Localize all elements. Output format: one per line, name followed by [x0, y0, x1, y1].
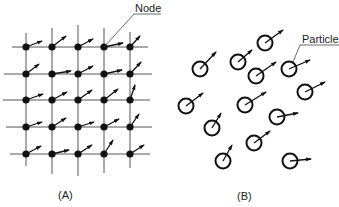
velocity-arrow-icon [52, 92, 67, 100]
particle [247, 131, 271, 151]
velocity-arrow-icon [78, 66, 93, 74]
particle [298, 82, 326, 100]
particle-leader-line [293, 45, 339, 62]
particle-callout: Particle [293, 33, 339, 62]
node [48, 92, 67, 104]
node-label: Node [135, 2, 161, 14]
particle [231, 50, 253, 70]
velocity-arrow-icon [52, 118, 66, 127]
velocity-arrow-icon [78, 90, 92, 100]
velocity-arrow-icon [277, 113, 298, 117]
node-leader-line [104, 14, 161, 47]
node [126, 114, 139, 131]
node [126, 145, 144, 158]
node [100, 140, 113, 158]
node [100, 119, 119, 131]
velocity-arrow-icon [104, 119, 119, 127]
node [22, 94, 43, 104]
particle-label: Particle [302, 33, 339, 45]
velocity-arrow-icon [26, 64, 39, 74]
velocity-arrow-icon [26, 41, 42, 47]
velocity-arrow-icon [130, 62, 141, 74]
node [22, 64, 39, 78]
velocity-arrow-icon [52, 36, 66, 47]
velocity-arrow-icon [104, 89, 118, 100]
panel-a-caption: (A) [58, 189, 73, 201]
node [100, 89, 118, 104]
velocity-arrow-icon [305, 82, 325, 92]
particle [193, 52, 217, 77]
particle [283, 154, 312, 169]
velocity-arrow-icon [78, 39, 93, 47]
node [74, 39, 93, 51]
node [22, 41, 42, 51]
node [48, 118, 66, 131]
particle [270, 110, 299, 125]
node [74, 90, 92, 104]
node [74, 122, 94, 131]
velocity-arrow-icon [130, 36, 140, 47]
particle [179, 93, 204, 114]
node [48, 36, 66, 51]
particle [238, 92, 267, 113]
node [126, 36, 140, 51]
particle [258, 30, 284, 51]
velocity-arrow-icon [290, 159, 311, 161]
panel-b-particles: Particle (B) [179, 30, 339, 202]
particles-with-vectors [179, 30, 326, 169]
node [74, 66, 93, 78]
panel-b-caption: (B) [237, 190, 252, 202]
velocity-arrow-icon [130, 145, 144, 154]
particle [205, 113, 222, 136]
nodes-with-vectors [22, 36, 144, 158]
particle [216, 145, 233, 169]
node [22, 146, 41, 158]
particle [282, 60, 311, 77]
particle [249, 62, 277, 84]
node [126, 85, 135, 104]
panel-a-lattice: Node (A) [3, 2, 161, 201]
diagram-canvas: Node (A) Particle (B) [0, 0, 339, 207]
velocity-arrow-icon [104, 140, 113, 154]
velocity-arrow-icon [26, 146, 41, 154]
velocity-arrow-icon [78, 145, 92, 154]
node [22, 122, 42, 131]
velocity-arrow-icon [26, 94, 43, 100]
node [126, 62, 141, 78]
node-callout: Node [104, 2, 161, 47]
node [74, 145, 92, 158]
velocity-arrow-icon [130, 114, 139, 127]
